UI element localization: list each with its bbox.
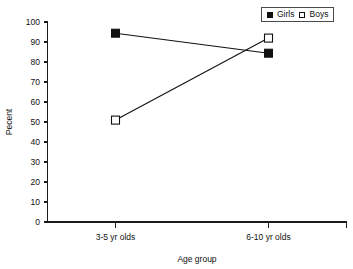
y-tick-label: 30: [31, 157, 41, 167]
data-point-boys-3-5: [112, 116, 120, 124]
y-tick-label: 40: [31, 137, 41, 147]
legend-entry-boys: Boys: [299, 10, 328, 19]
y-tick-label: 50: [31, 117, 41, 127]
x-tick-label: 6-10 yr olds: [246, 232, 290, 242]
y-tick-label: 20: [31, 177, 41, 187]
chart-legend: Girls Boys: [261, 7, 334, 22]
filled-square-icon: [267, 12, 273, 18]
y-tick-label: 70: [31, 77, 41, 87]
y-tick-label: 90: [31, 37, 41, 47]
y-tick-label: 100: [26, 17, 40, 27]
data-point-girls-3-5: [112, 29, 120, 37]
line-chart: 100 90 80 70 60 50 40 30 20 10 0 3-5 yr …: [0, 0, 353, 269]
series-line-girls: [116, 33, 269, 53]
y-tick-labels: 100 90 80 70 60 50 40 30 20 10 0: [26, 17, 40, 227]
x-tick-marks: [116, 222, 347, 228]
plot-area: 100 90 80 70 60 50 40 30 20 10 0 3-5 yr …: [0, 0, 353, 269]
x-tick-labels: 3-5 yr olds 6-10 yr olds: [96, 232, 291, 242]
y-tick-label: 10: [31, 197, 41, 207]
data-point-boys-6-10: [265, 34, 273, 42]
legend-label-girls: Girls: [277, 10, 294, 19]
y-tick-label: 60: [31, 97, 41, 107]
data-point-girls-6-10: [265, 49, 273, 57]
x-tick-label: 3-5 yr olds: [96, 232, 136, 242]
y-axis-title: Pecent: [4, 108, 14, 135]
y-tick-marks: [44, 22, 48, 222]
legend-entry-girls: Girls: [267, 10, 294, 19]
open-square-icon: [299, 12, 305, 18]
x-axis-title: Age group: [177, 254, 216, 264]
legend-label-boys: Boys: [309, 10, 328, 19]
y-tick-label: 80: [31, 57, 41, 67]
y-tick-label: 0: [35, 217, 40, 227]
